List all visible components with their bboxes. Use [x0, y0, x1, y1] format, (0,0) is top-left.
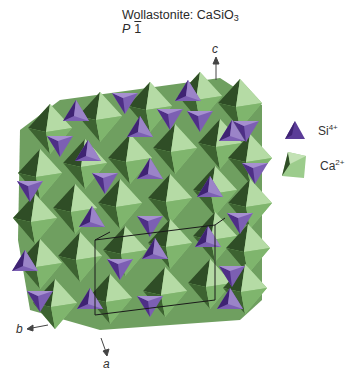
legend-ca: Ca2+	[280, 150, 344, 180]
axis-label-c: c	[212, 42, 218, 56]
octahedron-icon	[280, 150, 308, 180]
axis-label-b: b	[16, 322, 23, 336]
crystal-structure	[0, 0, 356, 382]
legend-si: Si4+	[284, 120, 338, 140]
axis-label-a: a	[103, 357, 110, 371]
tetrahedron-icon	[284, 120, 306, 140]
